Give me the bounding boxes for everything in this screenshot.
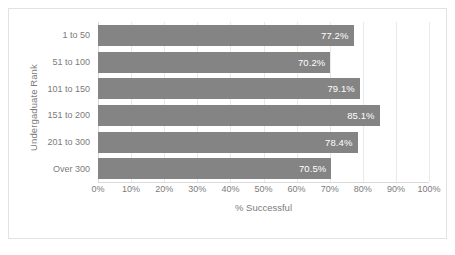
bar[interactable]: 77.2% xyxy=(98,25,354,46)
plot-area: 77.2% 70.2% 79.1% 85.1% 78.4% xyxy=(98,22,429,182)
x-axis-tick-labels: 0%10%20%30%40%50%60%70%80%90%100% xyxy=(98,184,429,198)
x-tick-label: 50% xyxy=(254,184,272,194)
bar-value-label: 79.1% xyxy=(327,83,359,94)
category-label: 101 to 150 xyxy=(38,75,94,102)
bar[interactable]: 79.1% xyxy=(98,78,360,99)
y-axis-title: Undergaduate Rank xyxy=(28,28,39,188)
category-label: 1 to 50 xyxy=(38,22,94,49)
bar-row: 85.1% xyxy=(98,102,429,129)
x-tick-label: 70% xyxy=(321,184,339,194)
category-label: 51 to 100 xyxy=(38,49,94,76)
bar[interactable]: 85.1% xyxy=(98,105,380,126)
x-tick-label: 60% xyxy=(288,184,306,194)
x-axis-title: % Successful xyxy=(98,202,429,213)
category-axis: 1 to 50 51 to 100 101 to 150 151 to 200 … xyxy=(38,22,94,182)
bar-row: 70.5% xyxy=(98,155,429,182)
category-label: 151 to 200 xyxy=(38,102,94,129)
bar-row: 79.1% xyxy=(98,75,429,102)
bar-value-label: 77.2% xyxy=(321,30,353,41)
category-label: Over 300 xyxy=(38,155,94,182)
category-label: 201 to 300 xyxy=(38,129,94,156)
bar-value-label: 70.2% xyxy=(298,57,330,68)
bar-value-label: 85.1% xyxy=(347,110,379,121)
x-tick-label: 30% xyxy=(188,184,206,194)
bar-row: 70.2% xyxy=(98,49,429,76)
x-tick-label: 90% xyxy=(387,184,405,194)
x-tick-label: 100% xyxy=(417,184,440,194)
x-tick-label: 80% xyxy=(354,184,372,194)
bar[interactable]: 70.5% xyxy=(98,158,331,179)
bar-row: 78.4% xyxy=(98,129,429,156)
bar-value-label: 78.4% xyxy=(325,137,357,148)
x-tick-label: 40% xyxy=(221,184,239,194)
bar[interactable]: 78.4% xyxy=(98,132,358,153)
bar-row: 77.2% xyxy=(98,22,429,49)
bar-chart: Undergaduate Rank 1 to 50 51 to 100 101 … xyxy=(0,0,455,255)
bar-value-label: 70.5% xyxy=(299,163,331,174)
x-tick-label: 20% xyxy=(155,184,173,194)
x-axis-line xyxy=(98,182,429,183)
bar-series: 77.2% 70.2% 79.1% 85.1% 78.4% xyxy=(98,22,429,182)
bar[interactable]: 70.2% xyxy=(98,52,330,73)
gridline xyxy=(429,22,430,182)
x-tick-label: 10% xyxy=(122,184,140,194)
x-tick-label: 0% xyxy=(91,184,104,194)
